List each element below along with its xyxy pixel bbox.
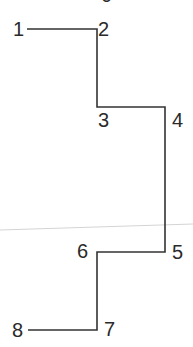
point-label-3: 3	[98, 110, 109, 130]
point-label-6: 6	[77, 241, 88, 261]
point-label-7: 7	[104, 319, 115, 339]
point-label-1: 1	[13, 19, 24, 39]
guide-line	[0, 224, 193, 230]
point-label-8: 8	[12, 320, 23, 340]
point-label-4: 4	[172, 110, 183, 130]
stepped-path-diagram	[0, 0, 193, 347]
point-label-2: 2	[98, 19, 109, 39]
stepped-path	[27, 29, 165, 330]
point-label-5: 5	[172, 242, 183, 262]
